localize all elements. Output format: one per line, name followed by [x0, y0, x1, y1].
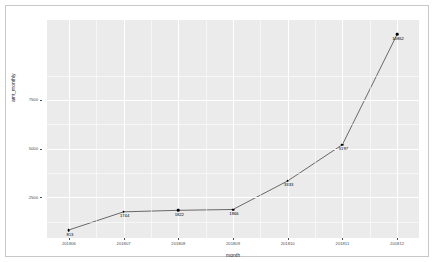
y-tick-mark: [40, 100, 42, 101]
x-tick-mark: [233, 238, 234, 240]
gridline-x-major: [233, 20, 234, 238]
data-point-label: 1866: [229, 211, 238, 216]
x-tick-mark: [124, 238, 125, 240]
data-point-label: 5197: [339, 146, 348, 151]
data-point-label: 1744: [120, 213, 129, 218]
x-tick-label: 201806: [62, 241, 76, 247]
x-tick-label: 201810: [281, 241, 295, 247]
y-tick-label: 5000: [29, 146, 38, 151]
gridline-x-minor: [370, 20, 371, 238]
y-tick-label: 7500: [29, 97, 38, 102]
x-tick-label: 201807: [117, 241, 131, 247]
gridline-x-major: [288, 20, 289, 238]
gridline-x-major: [397, 20, 398, 238]
y-axis-ticks: 250050007500: [6, 20, 42, 238]
plot-panel: 8131744182218663333519710862: [47, 20, 419, 238]
gridline-x-minor: [206, 20, 207, 238]
gridline-x-minor: [96, 20, 97, 238]
gridline-x-major: [69, 20, 70, 238]
y-tick-mark: [40, 149, 42, 150]
gridline-x-minor: [315, 20, 316, 238]
y-tick-mark: [40, 197, 42, 198]
x-tick-label: 201812: [390, 241, 404, 247]
gridline-x-major: [178, 20, 179, 238]
x-tick-mark: [397, 238, 398, 240]
x-tick-label: 201811: [336, 241, 350, 247]
gridline-x-minor: [260, 20, 261, 238]
x-tick-mark: [342, 238, 343, 240]
gridline-x-minor: [151, 20, 152, 238]
data-point-label: 3333: [284, 182, 293, 187]
x-tick-mark: [69, 238, 70, 240]
gridline-x-major: [342, 20, 343, 238]
data-point-label: 1822: [175, 212, 184, 217]
x-tick-label: 201808: [171, 241, 185, 247]
x-tick-mark: [288, 238, 289, 240]
y-axis-title: amt_monthly: [10, 73, 16, 102]
x-tick-label: 201809: [226, 241, 240, 247]
x-axis-title: month: [47, 252, 419, 258]
x-tick-mark: [178, 238, 179, 240]
y-tick-label: 2500: [29, 195, 38, 200]
gridline-x-major: [124, 20, 125, 238]
data-point-label: 10862: [392, 36, 404, 41]
data-point-label: 813: [66, 232, 73, 237]
chart-frame: 8131744182218663333519710862 25005000750…: [5, 5, 429, 257]
